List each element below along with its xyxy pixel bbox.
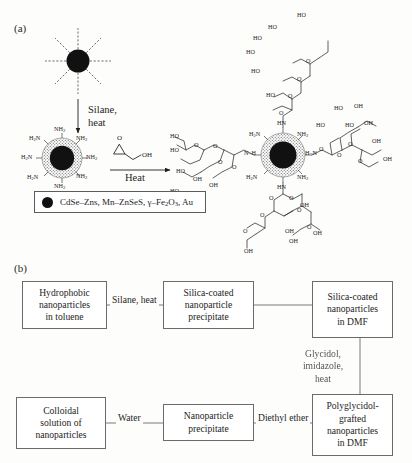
legend-box: CdSe–Zns, Mn–ZnSeS, γ–Fe2O3, Au xyxy=(34,191,206,213)
legend-marker-icon xyxy=(42,197,53,208)
product-linkage-label-w: N–H xyxy=(244,150,256,156)
ether-oxygen-label: O xyxy=(232,164,236,170)
hydroxyl-label: OH xyxy=(354,103,363,109)
hydroxyl-label: OH xyxy=(289,238,298,244)
amine-label-sw: H2N xyxy=(27,174,38,181)
ether-oxygen-label: O xyxy=(213,143,217,149)
flow-box-silica-coated-precipitate[interactable]: Silica-coatednanoparticleprecipitate xyxy=(163,281,254,329)
flow-box-nanoparticle-precipitate[interactable]: Nanoparticleprecipitate xyxy=(163,404,254,441)
amine-label-ne: NH2 xyxy=(76,135,87,142)
hydroxyl-label: OH xyxy=(313,230,322,236)
flow-box-polyglycidol-grafted-dmf[interactable]: Polyglycidol-graftednanoparticlesin DMF xyxy=(312,394,393,456)
ether-oxygen-label: O xyxy=(269,195,273,201)
hydroxyl-label: HO xyxy=(345,122,354,128)
flow-edge-label-diethyl-ether: Diethyl ether xyxy=(256,412,310,424)
hydroxyl-label: HO xyxy=(246,49,255,55)
panel-b-label: (b) xyxy=(14,262,27,274)
ether-oxygen-label: O xyxy=(319,146,323,152)
ether-oxygen-label: O xyxy=(358,158,362,164)
ether-oxygen-label: O xyxy=(307,224,311,230)
amine-label-e: NH2 xyxy=(86,154,97,161)
legend-text: CdSe–Zns, Mn–ZnSeS, γ–Fe2O3, Au xyxy=(60,197,193,207)
ether-oxygen-label: O xyxy=(289,195,293,201)
hydroxyl-label: OH xyxy=(285,228,294,234)
hydroxyl-label: OH xyxy=(372,138,381,144)
hydroxyl-label: HO xyxy=(170,147,179,153)
hydroxyl-label: HO xyxy=(334,105,343,111)
panel-a-label: (a) xyxy=(14,22,26,34)
amine-label-w: H2N xyxy=(21,154,32,161)
hydroxyl-label: HO xyxy=(316,122,325,128)
ether-oxygen-label: O xyxy=(260,212,264,218)
flow-box-text: Colloidalsolution ofnanoparticles xyxy=(35,405,86,442)
flow-box-silica-coated-dmf[interactable]: Silica-coatednanoparticlesin DMF xyxy=(312,281,393,338)
hydroxyl-label: HO xyxy=(297,12,306,18)
hydroxyl-label: HO xyxy=(176,168,185,174)
flow-box-text: Silica-coatednanoparticleprecipitate xyxy=(183,287,233,324)
glycidol-reagent-graphic xyxy=(114,145,141,160)
hydroxyl-label: OH xyxy=(300,202,309,208)
product-amine-label-sw: H2N xyxy=(246,174,257,181)
hydroxyl-label: OH xyxy=(193,176,202,182)
hydroxyl-label: OH xyxy=(244,248,253,254)
ether-oxygen-label: O xyxy=(288,93,292,99)
amine-label-nw: H2N xyxy=(29,135,40,142)
ether-oxygen-label: O xyxy=(194,142,198,148)
product-linkage-label-e: H–N xyxy=(305,150,317,156)
amine-label-n: NH2 xyxy=(54,126,65,133)
flow-box-hydrophobic-nanoparticles[interactable]: Hydrophobicnanoparticlesin toluene xyxy=(22,281,107,329)
flow-box-text: Nanoparticleprecipitate xyxy=(184,410,234,435)
ether-oxygen-label: O xyxy=(279,110,283,116)
hydroxyl-label: HO xyxy=(170,133,179,139)
flow-box-text: Polyglycidol-graftednanoparticlesin DMF xyxy=(326,400,378,449)
ether-oxygen-label: O xyxy=(243,228,247,234)
hydroxyl-label: OH xyxy=(209,182,218,188)
glycidol-hydroxyl-label: OH xyxy=(142,152,152,159)
flow-edge-label-silane-heat: Silane, heat xyxy=(110,294,159,306)
hydroxyl-label: HO xyxy=(266,92,275,98)
ether-oxygen-label: O xyxy=(218,159,222,165)
hydroxyl-label: HO xyxy=(251,68,260,74)
amine-label-s: NH2 xyxy=(54,183,65,190)
start-nanoparticle-graphic xyxy=(45,28,111,94)
heat-label: Heat xyxy=(125,172,145,184)
amine-label-se: NH2 xyxy=(76,173,87,180)
flow-box-text: Hydrophobicnanoparticlesin toluene xyxy=(39,287,90,324)
start-nanoparticle-core xyxy=(67,50,90,73)
ether-oxygen-label: O xyxy=(348,141,352,147)
product-amine-label-ne: NH2 xyxy=(297,131,308,138)
ether-oxygen-label: O xyxy=(337,152,341,158)
flow-box-colloidal-solution[interactable]: Colloidalsolution ofnanoparticles xyxy=(16,397,106,449)
hydroxyl-label: OH xyxy=(364,120,373,126)
product-linkage-label-n: HN xyxy=(277,120,286,126)
silane-heat-label-line1: Silane, xyxy=(88,104,117,116)
ether-oxygen-label: O xyxy=(306,58,310,64)
glycidol-oxygen-label: O xyxy=(117,135,122,142)
figure-root: (a) (b) xyxy=(0,0,412,463)
flow-box-text: Silica-coatednanoparticlesin DMF xyxy=(327,291,378,328)
hydroxyl-label: OH xyxy=(383,156,392,162)
ether-oxygen-label: O xyxy=(297,76,301,82)
hydroxyl-label: HO xyxy=(268,24,277,30)
product-linkage-label-s: HN xyxy=(277,184,286,190)
flow-edge-label-glycidol-imidazole-heat: Glycidol,imidazole,heat xyxy=(290,348,356,385)
hydroxyl-label: HO xyxy=(253,35,262,41)
product-amine-label-se: NH2 xyxy=(297,174,308,181)
flow-edge-label-water: Water xyxy=(116,412,143,424)
product-amine-label-nw: H2N xyxy=(249,131,260,138)
silane-heat-label-line2: heat xyxy=(88,117,106,129)
